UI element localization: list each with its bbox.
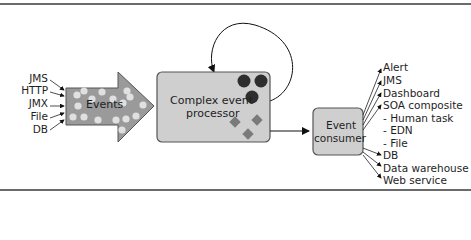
events-label: Events	[86, 99, 123, 111]
output-arrows	[363, 69, 381, 178]
output-label-edn: - EDN	[383, 124, 413, 136]
output-label-human-task: - Human task	[383, 112, 453, 124]
output-label-dashboard: Dashboard	[383, 87, 440, 99]
source-label-jmx: JMX	[8, 97, 48, 109]
consumer-label-line2: consumer	[314, 132, 366, 144]
processor-label-line2: processor	[186, 108, 240, 120]
source-arrows	[50, 80, 64, 130]
source-label-db: DB	[8, 123, 48, 135]
output-label-web-service: Web service	[383, 174, 447, 186]
output-label-jms: JMS	[383, 74, 402, 86]
output-label-data-warehouse: Data warehouse	[383, 162, 469, 174]
consumer-label-line1: Event	[326, 119, 356, 131]
output-label-soa-composite: SOA composite	[383, 99, 463, 111]
output-label-db: DB	[383, 149, 398, 161]
source-label-file: File	[8, 110, 48, 122]
source-label-jms: JMS	[8, 72, 48, 84]
processor-label-line1: Complex event	[170, 95, 253, 107]
output-label-alert: Alert	[383, 61, 408, 73]
source-label-http: HTTP	[8, 84, 48, 96]
output-label-file: - File	[383, 137, 408, 149]
